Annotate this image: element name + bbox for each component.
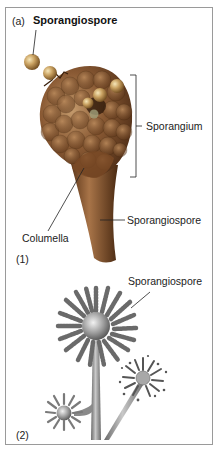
label-sporangium: Sporangium bbox=[146, 121, 203, 132]
panel-tag-2: (2) bbox=[16, 430, 29, 441]
label-stalk-sporangiospore: Sporangiospore bbox=[127, 215, 201, 226]
label-head-sporangiospore: Sporangiospore bbox=[128, 276, 202, 287]
panel-tag-1: (1) bbox=[16, 254, 29, 265]
free-spore bbox=[24, 54, 40, 70]
panel-tag-a: (a) bbox=[12, 16, 25, 27]
illustration bbox=[0, 0, 220, 454]
conidiophore-drawing bbox=[46, 287, 167, 440]
title-label-sporangiospore: Sporangiospore bbox=[33, 15, 117, 26]
label-columella: Columella bbox=[22, 233, 69, 244]
leader-line-part2 bbox=[131, 292, 150, 308]
